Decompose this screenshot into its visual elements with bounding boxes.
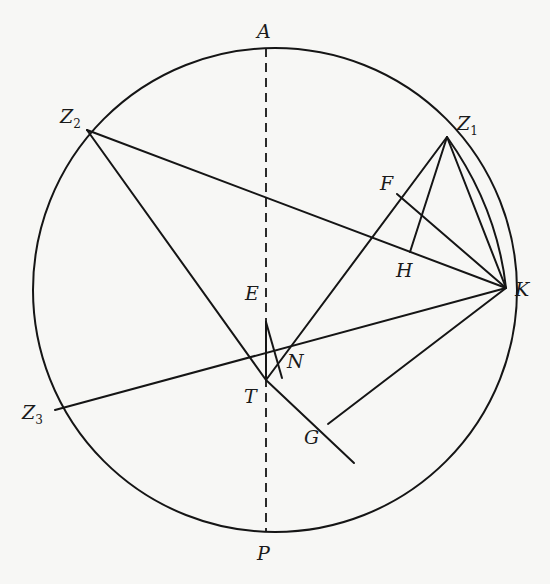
construction-lines bbox=[55, 130, 506, 463]
diagram-canvas: APTENZ1Z2Z3KFHG bbox=[0, 0, 550, 584]
label-h: H bbox=[395, 259, 413, 281]
segment-z1-k bbox=[447, 137, 506, 288]
segment-z2-k bbox=[87, 130, 506, 288]
segment-t-z1 bbox=[266, 137, 447, 380]
label-f: F bbox=[379, 172, 394, 194]
celestial-circle bbox=[33, 48, 517, 532]
segment-z3-k bbox=[55, 288, 506, 410]
segment-z2-t bbox=[87, 130, 266, 380]
segment-t-extension bbox=[266, 380, 354, 463]
label-e: E bbox=[244, 282, 259, 304]
label-p: P bbox=[256, 542, 271, 564]
label-z2: Z2 bbox=[59, 105, 81, 131]
label-z3: Z3 bbox=[21, 401, 43, 427]
label-n: N bbox=[286, 350, 305, 372]
label-t: T bbox=[244, 385, 258, 407]
segment-g-k bbox=[328, 288, 506, 424]
label-k: K bbox=[514, 278, 531, 300]
label-g: G bbox=[304, 426, 319, 448]
segment-z1-h bbox=[410, 137, 447, 252]
label-a: A bbox=[255, 20, 271, 42]
point-labels: APTENZ1Z2Z3KFHG bbox=[21, 20, 531, 564]
